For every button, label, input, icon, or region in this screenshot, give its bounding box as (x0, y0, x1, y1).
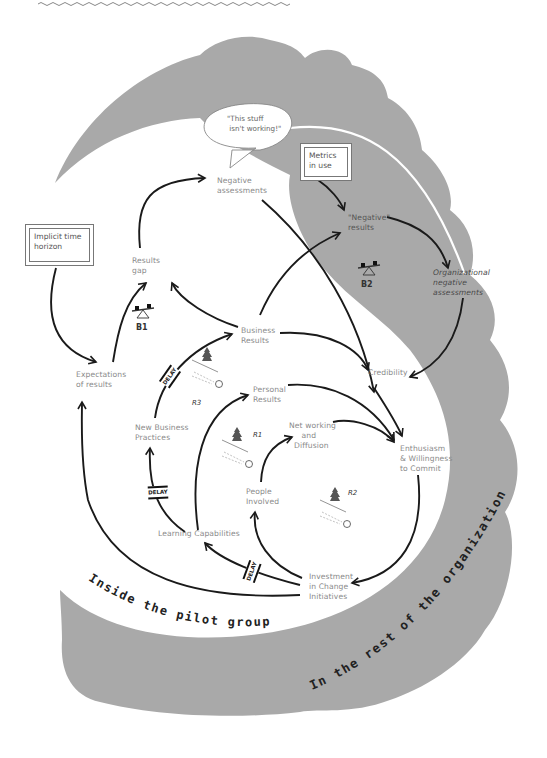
var-organizational-negative-assessments: Organizational negative assessments (433, 268, 490, 298)
arrow-investment-to-people (255, 512, 302, 578)
snowball-icon-r2 (320, 487, 351, 528)
snowball-icon-r1 (222, 427, 253, 468)
arrow-businessresults-to-credibility (280, 333, 368, 370)
arrow-networking-to-enthusiasm (333, 421, 394, 442)
var-networking-and-diffusion: Net working and Diffusion (289, 421, 336, 451)
causal-loop-diagram: Inside the pilot group In the rest of th… (0, 0, 547, 758)
arrow-timehorizon-to-expectations (51, 268, 96, 362)
arrow-learning-to-personalresults (196, 395, 248, 530)
top-wavy-rule (38, 3, 290, 6)
var-expectations-of-results: Expectations of results (76, 370, 126, 390)
implicit-time-horizon-label: Implicit time horizon (34, 232, 82, 252)
loop-label-r1: R1 (253, 431, 262, 439)
var-investment-in-change-initiatives: Investment in Change Initiatives (309, 572, 353, 602)
var-results-gap: Results gap (132, 256, 160, 276)
var-new-business-practices: New Business Practices (135, 423, 189, 443)
loop-label-r2: R2 (348, 489, 357, 497)
loop-label-b1: B1 (136, 323, 148, 332)
arrow-businessresults-to-resultsgap (172, 283, 238, 327)
var-negative-assessments: Negative assessments (217, 176, 267, 196)
var-credibility: Credibility (368, 368, 408, 378)
arrow-people-to-networking (261, 437, 292, 482)
loop-label-b2: B2 (361, 280, 373, 289)
metrics-in-use-label: Metrics in use (309, 151, 337, 171)
var-negative-results: "Negative" results (348, 213, 390, 233)
implicit-time-horizon-box: Implicit time horizon (25, 224, 94, 266)
var-learning-capabilities: Learning Capabilities (158, 529, 240, 539)
var-people-involved: People Involved (246, 487, 279, 507)
var-enthusiasm-willingness: Enthusiasm & Willingness to Commit (400, 444, 452, 474)
arrow-resultsgap-to-negassess (139, 178, 205, 248)
loop-label-r3: R3 (192, 399, 201, 407)
inner-region-label: Inside the pilot group (86, 571, 271, 629)
var-personal-results: Personal Results (253, 385, 286, 405)
balance-icon-b1 (132, 304, 154, 318)
speech-bubble-text: "This stuff isn't working!" (227, 114, 281, 134)
var-business-results: Business Results (241, 326, 275, 346)
metrics-in-use-box: Metrics in use (300, 143, 352, 181)
delay-marker-learning-to-newpractices: DELAY (148, 485, 169, 499)
